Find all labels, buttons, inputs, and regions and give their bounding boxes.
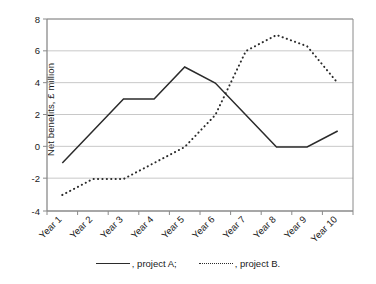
x-tick-label: Year 4 — [129, 214, 156, 241]
legend-entry-project-b: , project B. — [199, 258, 280, 269]
chart-legend: , project A; , project B. — [0, 258, 376, 269]
y-tick-label: 8 — [35, 14, 40, 25]
legend-entry-project-a: , project A; — [96, 258, 177, 269]
y-tick-label: 6 — [35, 45, 40, 56]
line-chart-figure: Net benefits, £ million — [0, 0, 376, 284]
y-tick-label: -2 — [32, 173, 40, 184]
x-tick-label: Year 1 — [37, 214, 64, 241]
legend-label-project-a: , project A; — [132, 258, 177, 269]
y-tick-label: 0 — [35, 141, 40, 152]
x-tick-label: Year 6 — [190, 214, 217, 241]
x-tick-label: Year 5 — [159, 214, 186, 241]
x-tick-label: Year 7 — [220, 214, 247, 241]
x-axis-tick-labels: Year 1 Year 2 Year 3 Year 4 Year 5 Year … — [37, 214, 339, 245]
dotted-line-swatch-icon — [199, 263, 233, 264]
y-tick-label: 2 — [35, 109, 40, 120]
y-tick-label: 4 — [35, 77, 40, 88]
x-tick-label: Year 8 — [251, 214, 278, 241]
plot-area: 8 6 4 2 0 -2 -4 Year 1 Year 2 Year 3 — [0, 0, 376, 284]
y-axis-tick-labels: 8 6 4 2 0 -2 -4 — [32, 14, 40, 217]
x-tick-label: Year 2 — [67, 214, 94, 241]
solid-line-swatch-icon — [96, 263, 130, 264]
y-tick-label: -4 — [32, 206, 40, 217]
gridlines — [47, 19, 353, 178]
x-tick-label: Year 3 — [98, 214, 125, 241]
legend-label-project-b: , project B. — [235, 258, 280, 269]
x-tick-label: Year 9 — [282, 214, 309, 241]
x-tick-label: Year 10 — [308, 214, 339, 245]
